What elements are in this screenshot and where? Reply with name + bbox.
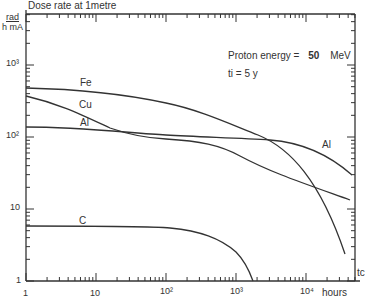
al-label: Al bbox=[80, 117, 89, 128]
y-tick-100: 10² bbox=[6, 130, 19, 140]
chart-title: Dose rate at 1metre bbox=[28, 0, 116, 11]
y-unit-denominator: h mA bbox=[2, 22, 23, 32]
series-c bbox=[26, 226, 253, 281]
x-tick-1: 1 bbox=[23, 288, 28, 298]
energy-value: 50 bbox=[308, 50, 319, 61]
y-unit-numerator: rad bbox=[6, 12, 19, 22]
tc-label: tc bbox=[357, 267, 365, 278]
series-lines bbox=[26, 88, 352, 281]
y-tick-1000: 10³ bbox=[6, 58, 19, 68]
x-tick-1000: 10³ bbox=[230, 286, 243, 296]
y-tick-1: 1 bbox=[16, 275, 21, 285]
energy-unit: MeV bbox=[330, 50, 351, 61]
series-fe bbox=[26, 88, 345, 254]
chart-canvas bbox=[0, 0, 372, 304]
series-al bbox=[26, 127, 352, 175]
cu-label: Cu bbox=[79, 99, 92, 110]
energy-text: Proton energy = bbox=[228, 50, 299, 61]
al-label-right: Al bbox=[322, 139, 331, 150]
x-axis-label: hours bbox=[322, 287, 347, 298]
y-tick-10: 10 bbox=[10, 202, 20, 212]
x-tick-10000: 10⁴ bbox=[300, 286, 314, 296]
x-tick-100: 10² bbox=[160, 286, 173, 296]
ti-annotation: ti = 5 y bbox=[228, 68, 258, 79]
energy-annotation: Proton energy = 50 MeV bbox=[228, 50, 351, 61]
x-tick-10: 10 bbox=[90, 288, 100, 298]
fe-label: Fe bbox=[80, 77, 92, 88]
c-label: C bbox=[79, 215, 86, 226]
series-cu bbox=[26, 96, 350, 200]
